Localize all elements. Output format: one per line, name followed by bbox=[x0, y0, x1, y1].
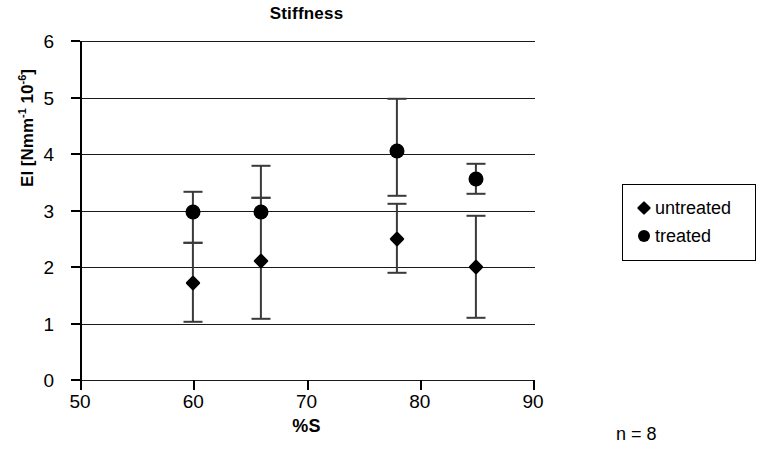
y-axis: 0123456 bbox=[0, 41, 80, 380]
data-point-untreated-x66 bbox=[253, 254, 269, 270]
y-tick-mark-3 bbox=[71, 210, 80, 212]
chart-title: Stiffness bbox=[80, 4, 533, 24]
legend-label-untreated: untreated bbox=[655, 198, 731, 218]
errorbar-treated-x66 bbox=[260, 166, 262, 198]
y-axis-text-part: EI [Nmm bbox=[18, 118, 37, 187]
sample-size-annotation: n = 8 bbox=[616, 424, 657, 444]
errorbar-cap-lower-treated-x60 bbox=[184, 242, 203, 244]
errorbar-cap-lower-treated-x78 bbox=[388, 195, 407, 197]
y-tick-label-2: 2 bbox=[43, 258, 54, 277]
data-point-treated-x66 bbox=[254, 204, 269, 219]
circle-marker-icon bbox=[633, 230, 655, 242]
y-tick-mark-4 bbox=[71, 153, 80, 155]
y-tick-mark-2 bbox=[71, 266, 80, 268]
data-point-treated-x85 bbox=[469, 172, 484, 187]
data-point-untreated-x60 bbox=[185, 275, 201, 291]
errorbar-cap-lower-treated-x85 bbox=[467, 192, 486, 194]
chart-legend: untreatedtreated bbox=[622, 184, 756, 261]
y-axis-text-part: ] bbox=[18, 69, 37, 75]
y-tick-label-4: 4 bbox=[43, 145, 54, 164]
errorbar-cap-lower-untreated-x78 bbox=[388, 271, 407, 273]
x-tick-mark-80 bbox=[420, 380, 422, 390]
data-point-untreated-x85 bbox=[469, 259, 485, 275]
y-tick-label-3: 3 bbox=[43, 201, 54, 220]
data-point-treated-x60 bbox=[186, 204, 201, 219]
errorbar-cap-lower-untreated-x60 bbox=[184, 321, 203, 323]
errorbar-cap-lower-treated-x66 bbox=[252, 197, 271, 199]
x-tick-label-70: 70 bbox=[296, 392, 317, 412]
y-tick-mark-6 bbox=[71, 40, 80, 42]
y-axis-title-text: EI [Nmm-1 10-6] bbox=[18, 69, 37, 187]
errorbar-cap-lower-untreated-x85 bbox=[467, 317, 486, 319]
stiffness-chart-figure: Stiffness 0123456 EI [Nmm-1 10-6] 506070… bbox=[0, 0, 766, 467]
errorbar-cap-lower-untreated-x66 bbox=[252, 318, 271, 320]
legend-item-untreated[interactable]: untreated bbox=[633, 194, 745, 222]
x-tick-mark-70 bbox=[307, 380, 309, 390]
y-tick-label-6: 6 bbox=[43, 32, 54, 51]
data-series-layer bbox=[80, 41, 533, 380]
x-tick-mark-50 bbox=[80, 380, 82, 390]
x-tick-label-80: 80 bbox=[409, 392, 430, 412]
y-axis-text-part: 10 bbox=[18, 85, 37, 109]
x-axis-title: %S bbox=[80, 416, 533, 437]
legend-item-treated[interactable]: treated bbox=[633, 222, 745, 250]
x-tick-mark-60 bbox=[193, 380, 195, 390]
y-axis-exponent: -6 bbox=[16, 75, 28, 85]
y-tick-mark-5 bbox=[71, 97, 80, 99]
x-tick-label-90: 90 bbox=[522, 392, 543, 412]
x-axis: 5060708090 bbox=[0, 380, 766, 420]
errorbar-cap-upper-untreated-x78 bbox=[388, 203, 407, 205]
x-tick-mark-90 bbox=[533, 380, 535, 390]
errorbar-cap-upper-treated-x66 bbox=[252, 165, 271, 167]
y-axis-title: EI [Nmm-1 10-6] bbox=[18, 8, 38, 248]
data-point-treated-x78 bbox=[390, 144, 405, 159]
data-point-untreated-x78 bbox=[389, 231, 405, 247]
x-tick-label-50: 50 bbox=[69, 392, 90, 412]
errorbar-cap-upper-treated-x85 bbox=[467, 163, 486, 165]
legend-label-treated: treated bbox=[655, 226, 711, 246]
y-axis-exponent: -1 bbox=[16, 108, 28, 118]
diamond-marker-icon bbox=[633, 203, 655, 213]
x-tick-label-60: 60 bbox=[183, 392, 204, 412]
y-tick-label-5: 5 bbox=[43, 88, 54, 107]
y-tick-label-1: 1 bbox=[43, 314, 54, 333]
y-tick-mark-1 bbox=[71, 323, 80, 325]
errorbar-cap-upper-treated-x60 bbox=[184, 191, 203, 193]
errorbar-cap-upper-untreated-x85 bbox=[467, 215, 486, 217]
errorbar-cap-upper-treated-x78 bbox=[388, 97, 407, 99]
